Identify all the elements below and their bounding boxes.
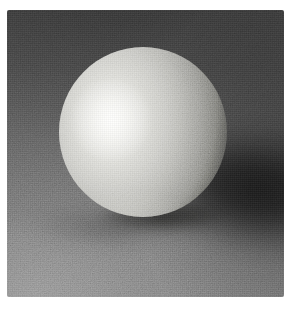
film-grain-overlay	[7, 10, 284, 297]
photograph	[7, 10, 284, 297]
page-margin	[0, 0, 292, 309]
